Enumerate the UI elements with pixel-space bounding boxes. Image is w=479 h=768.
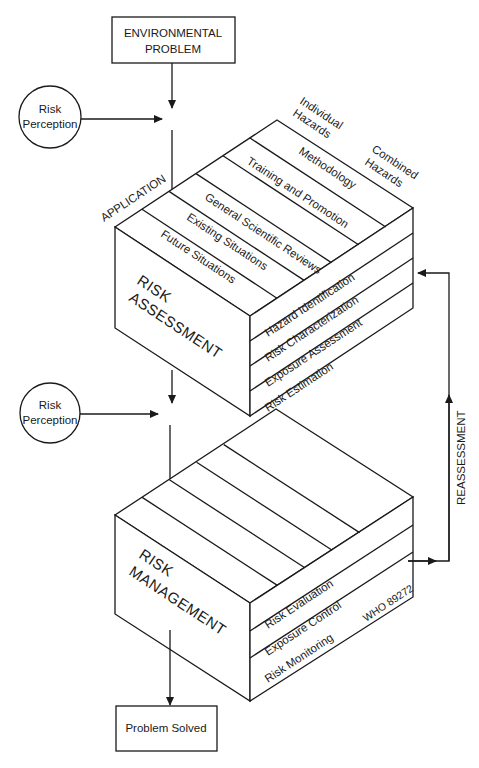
environmental-problem-line2: PROBLEM xyxy=(145,43,201,55)
risk-perception-2-line2: Perception xyxy=(23,414,78,426)
reassessment-loop xyxy=(408,273,449,561)
risk-framework-diagram: ENVIRONMENTAL PROBLEM Risk Perception Fu… xyxy=(0,0,479,768)
environmental-problem-box: ENVIRONMENTAL PROBLEM xyxy=(112,17,235,63)
risk-perception-1-line1: Risk xyxy=(39,103,62,115)
risk-management-box: Risk Evaluation Exposure Control Risk Mo… xyxy=(115,409,413,701)
risk-perception-1-line2: Perception xyxy=(23,118,78,130)
environmental-problem-line1: ENVIRONMENTAL xyxy=(124,27,223,39)
risk-perception-circle-2: Risk Perception xyxy=(20,383,80,443)
risk-perception-2-line1: Risk xyxy=(39,399,62,411)
risk-assessment-box: Future Situations Existing Situations Ge… xyxy=(98,95,420,416)
reassessment-label: REASSESSMENT xyxy=(455,410,467,505)
problem-solved-box: Problem Solved xyxy=(116,706,217,751)
problem-solved-label: Problem Solved xyxy=(125,722,206,734)
risk-perception-circle-1: Risk Perception xyxy=(19,86,81,148)
